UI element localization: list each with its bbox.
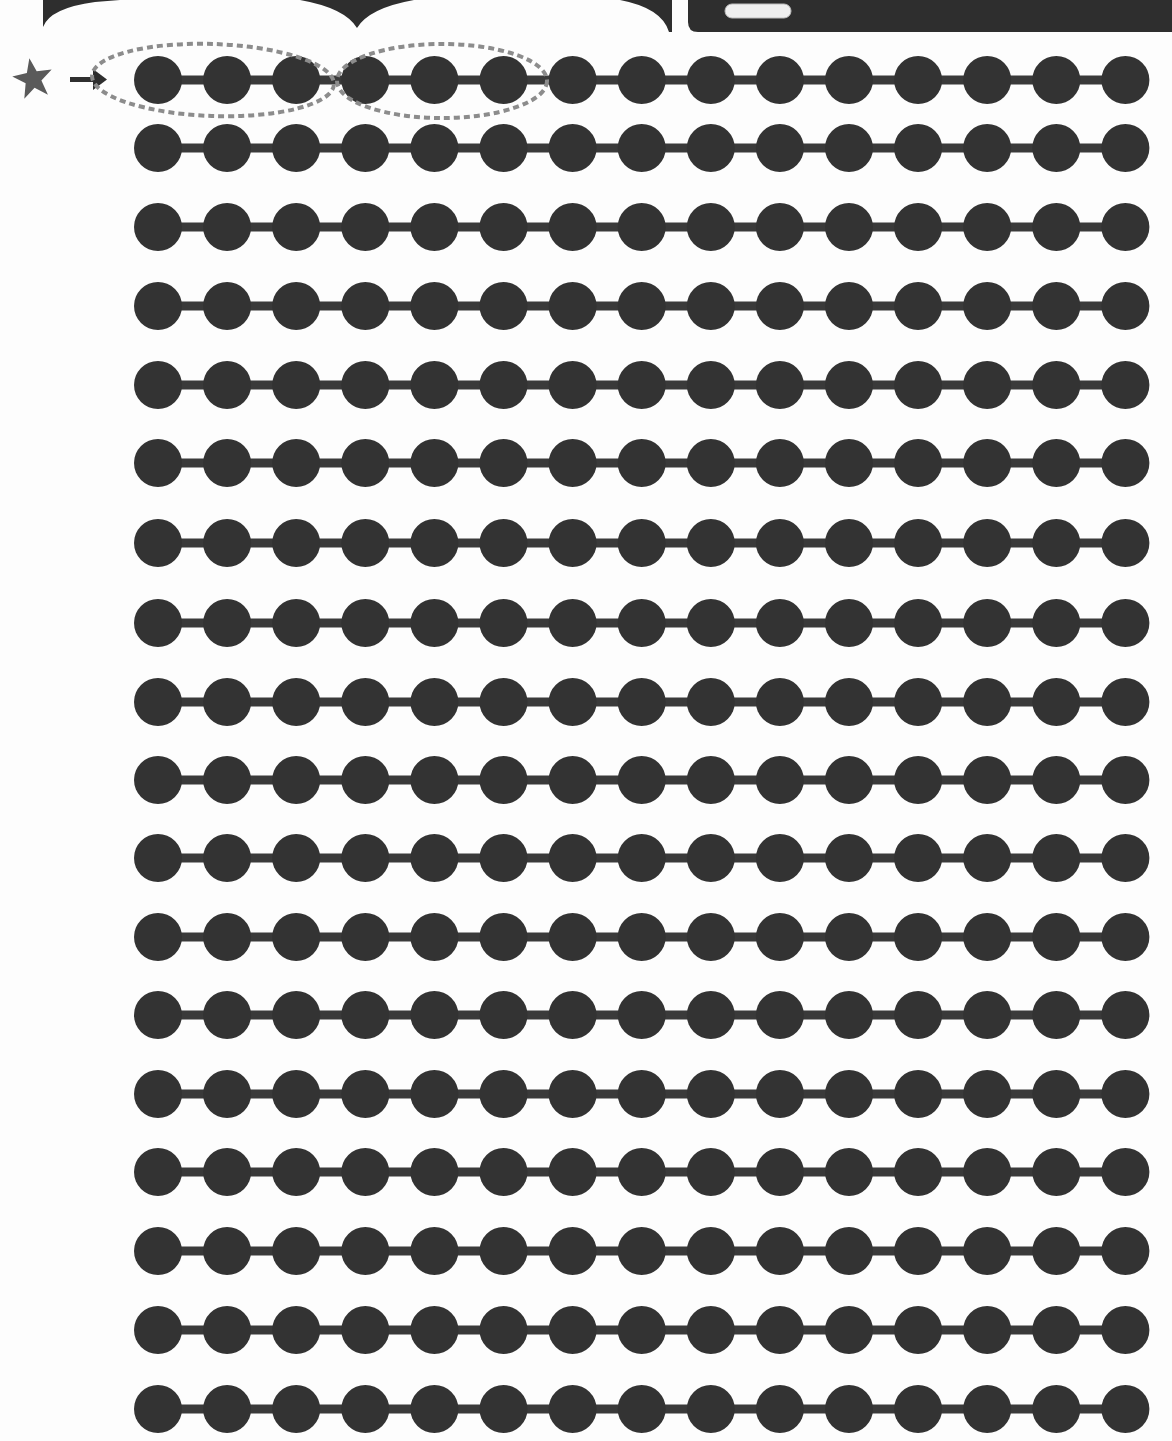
bead [963, 1306, 1011, 1354]
bead [272, 439, 320, 487]
bead [687, 678, 735, 726]
bead [1101, 1306, 1149, 1354]
bead [1032, 56, 1080, 104]
bead [894, 678, 942, 726]
star-icon [10, 55, 56, 100]
bead [687, 361, 735, 409]
bead [134, 282, 182, 330]
bead [203, 124, 251, 172]
bead [134, 519, 182, 567]
bead [963, 678, 1011, 726]
bead [480, 361, 528, 409]
bead [549, 1227, 597, 1275]
bead [825, 599, 873, 647]
bead [410, 124, 458, 172]
bead [341, 361, 389, 409]
bead [687, 1385, 735, 1433]
bead [549, 124, 597, 172]
bead [963, 1148, 1011, 1196]
bead [756, 1148, 804, 1196]
bead [756, 1227, 804, 1275]
bead [480, 991, 528, 1039]
bead [825, 361, 873, 409]
bead [825, 1227, 873, 1275]
bead [687, 282, 735, 330]
bead [480, 834, 528, 882]
bead [341, 1385, 389, 1433]
bead [272, 203, 320, 251]
bead [549, 1306, 597, 1354]
bead [134, 756, 182, 804]
bead [410, 756, 458, 804]
bead [480, 439, 528, 487]
bead [1032, 834, 1080, 882]
bead [480, 1306, 528, 1354]
bead [894, 1306, 942, 1354]
bead [825, 834, 873, 882]
bead [963, 1070, 1011, 1118]
header-scallop-cusp [300, 0, 414, 28]
bead-row-6 [134, 439, 1149, 487]
bead [341, 1148, 389, 1196]
bead [687, 203, 735, 251]
bead [894, 1148, 942, 1196]
bead [272, 1148, 320, 1196]
bead [549, 1385, 597, 1433]
bead [963, 913, 1011, 961]
bead [894, 282, 942, 330]
bead [894, 1385, 942, 1433]
bead [687, 756, 735, 804]
bead [203, 1227, 251, 1275]
bead [410, 361, 458, 409]
bead [1032, 678, 1080, 726]
bead [203, 1148, 251, 1196]
bead-row-11 [134, 834, 1149, 882]
bead [549, 991, 597, 1039]
bead [1101, 991, 1149, 1039]
bead [203, 756, 251, 804]
bead [756, 599, 804, 647]
bead [618, 439, 666, 487]
bead [963, 519, 1011, 567]
bead-row-4 [134, 282, 1149, 330]
bead [480, 1227, 528, 1275]
bead [549, 361, 597, 409]
bead [549, 203, 597, 251]
bead [134, 599, 182, 647]
bead [825, 282, 873, 330]
bead [203, 439, 251, 487]
bead [549, 282, 597, 330]
bead [963, 991, 1011, 1039]
bead [272, 599, 320, 647]
bead [756, 756, 804, 804]
bead [549, 1070, 597, 1118]
bead [341, 439, 389, 487]
bead-row-12 [134, 913, 1149, 961]
bead [1032, 599, 1080, 647]
bead-row-10 [134, 756, 1149, 804]
header-panel-pill [725, 4, 791, 18]
bead [341, 756, 389, 804]
bead [825, 1385, 873, 1433]
bead [341, 1070, 389, 1118]
bead [894, 439, 942, 487]
bead [341, 913, 389, 961]
bead [618, 991, 666, 1039]
bead [272, 519, 320, 567]
bead [687, 56, 735, 104]
bead [549, 56, 597, 104]
bead [825, 203, 873, 251]
bead [410, 203, 458, 251]
bead [272, 56, 320, 104]
bead-row-16 [134, 1227, 1149, 1275]
bead [1032, 1227, 1080, 1275]
bead [549, 678, 597, 726]
bead-row-1 [134, 56, 1149, 104]
bead [687, 439, 735, 487]
bead [1101, 56, 1149, 104]
bead [134, 1070, 182, 1118]
bead [756, 1385, 804, 1433]
bead [963, 1227, 1011, 1275]
bead [410, 913, 458, 961]
bead [272, 1306, 320, 1354]
